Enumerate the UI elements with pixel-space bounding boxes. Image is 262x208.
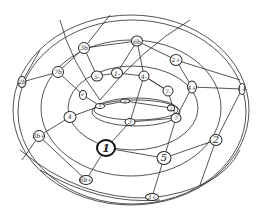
region-node-3-plus: 3+ bbox=[145, 193, 159, 201]
region-node-5-minus: 5- bbox=[91, 71, 103, 82]
region-node-3b: 3b bbox=[78, 42, 90, 54]
torus-outline-drawing bbox=[0, 0, 262, 208]
region-node-1-plus: 1+ bbox=[239, 83, 246, 95]
region-node-5-inner: 5 bbox=[95, 103, 105, 109]
region-node-1: 1 bbox=[96, 139, 116, 157]
region-node-6b-plus: 6b+ bbox=[79, 175, 93, 185]
torus-diagram: 1 5 2 4 3b+ 6b+ 3+ 3b 6b 2+ 5- 1- 4- 7b … bbox=[0, 0, 262, 208]
region-node-6b: 6b bbox=[131, 36, 143, 47]
region-node-5: 5 bbox=[157, 151, 172, 165]
region-node-2-plus: 2+ bbox=[170, 54, 183, 66]
region-node-1-minus: 1- bbox=[111, 68, 123, 79]
region-node-3: 3 bbox=[125, 118, 136, 126]
region-node-7: 7 bbox=[171, 113, 182, 123]
region-node-2b: 2b bbox=[18, 76, 27, 88]
region-node-7-minus: 7- bbox=[163, 86, 174, 97]
region-node-3b-plus: 3b+ bbox=[33, 130, 45, 142]
region-node-2-inner: 2 bbox=[167, 105, 175, 112]
region-node-7b: 7b bbox=[52, 66, 64, 78]
region-node-6-minus: 6- bbox=[79, 90, 87, 100]
region-node-4-minus: 4- bbox=[139, 71, 150, 82]
region-node-4: 4 bbox=[64, 111, 77, 123]
region-node-4-plus: 4+ bbox=[187, 81, 197, 94]
region-node-6-inner: 6 bbox=[120, 99, 130, 104]
region-node-2: 2 bbox=[210, 134, 223, 146]
